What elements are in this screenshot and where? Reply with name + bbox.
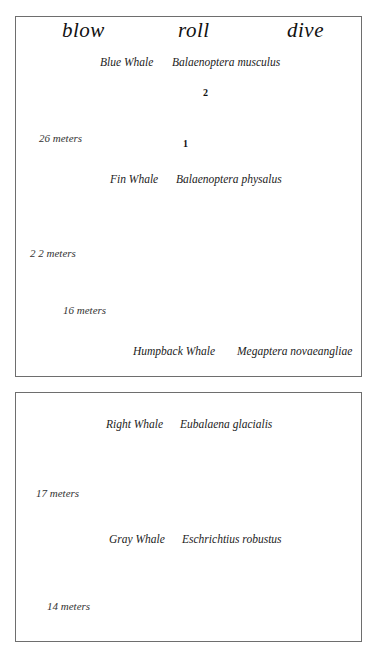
right-whale-scientific-name: Eubalaena glacialis xyxy=(180,418,272,430)
fin-whale-length: 2 2 meters xyxy=(30,247,76,259)
column-heading-blow: blow xyxy=(62,18,105,43)
humpback-whale-common-name: Humpback Whale xyxy=(133,345,215,357)
gray-whale-common-name: Gray Whale xyxy=(109,533,165,545)
right-whale-length: 17 meters xyxy=(36,487,79,499)
gray-whale-length: 14 meters xyxy=(47,600,90,612)
blue-whale-length: 26 meters xyxy=(39,132,82,144)
roll-step-2: 2 xyxy=(203,87,208,98)
fin-whale-scientific-name: Balaenoptera physalus xyxy=(176,173,282,185)
gray-whale-scientific-name: Eschrichtius robustus xyxy=(182,533,282,545)
blue-whale-common-name: Blue Whale xyxy=(100,56,153,68)
fin-whale-common-name: Fin Whale xyxy=(110,173,158,185)
humpback-whale-scientific-name: Megaptera novaeangliae xyxy=(237,345,352,357)
whale-panel-1 xyxy=(15,16,362,377)
column-heading-dive: dive xyxy=(287,18,324,43)
right-whale-common-name: Right Whale xyxy=(106,418,163,430)
column-heading-roll: roll xyxy=(178,18,210,43)
roll-step-1: 1 xyxy=(183,138,188,149)
blue-whale-scientific-name: Balaenoptera musculus xyxy=(172,56,280,68)
humpback-whale-length: 16 meters xyxy=(63,304,106,316)
